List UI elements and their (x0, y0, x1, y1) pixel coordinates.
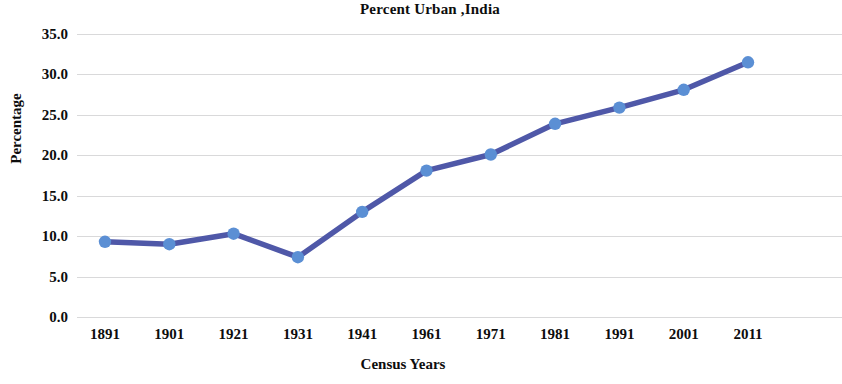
chart-figure: Percent Urban ,India Percentage 0.05.010… (0, 0, 842, 384)
data-point-marker (742, 56, 754, 68)
x-axis-label: Census Years (0, 356, 842, 373)
x-axis-label-text: Census Years (361, 356, 446, 373)
y-axis-tick-label: 25.0 (10, 106, 68, 123)
x-axis-tick-labels: 1891190119211931194119611971198119912001… (0, 326, 842, 352)
chart-title-text: Percent Urban ,India (360, 1, 500, 18)
data-point-marker (613, 101, 625, 113)
data-point-marker (163, 238, 175, 250)
y-axis-tick-label: 10.0 (10, 228, 68, 245)
data-point-marker (485, 148, 497, 160)
data-point-marker (549, 118, 561, 130)
y-axis-tick-label: 20.0 (10, 147, 68, 164)
data-point-marker (292, 251, 304, 263)
y-axis-tick-label: 15.0 (10, 187, 68, 204)
data-point-marker (678, 84, 690, 96)
data-point-marker (420, 164, 432, 176)
data-point-marker (356, 206, 368, 218)
y-axis-tick-label: 35.0 (10, 26, 68, 43)
data-point-marker (99, 236, 111, 248)
plot-area (77, 34, 842, 317)
chart-title: Percent Urban ,India (0, 1, 842, 18)
series-markers (99, 56, 754, 263)
gridline (77, 317, 842, 318)
line-series (77, 34, 842, 317)
y-axis-tick-label: 30.0 (10, 66, 68, 83)
series-line-path (105, 62, 748, 257)
y-axis-tick-label: 0.0 (10, 309, 68, 326)
y-axis-tick-label: 5.0 (10, 268, 68, 285)
x-axis-tick-label: 2011 (708, 326, 788, 343)
data-point-marker (227, 228, 239, 240)
